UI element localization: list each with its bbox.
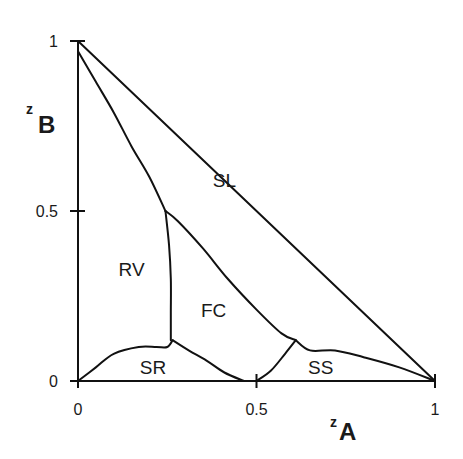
region-label-ss: SS xyxy=(308,357,333,378)
phase-diagram-chart: 00.5100.51 SLRVFCSRSS z A z B xyxy=(0,0,463,459)
axis-ticks: 00.5100.51 xyxy=(36,33,440,418)
y-tick-label: 0 xyxy=(49,373,58,390)
x-axis-label-prefix: z xyxy=(330,414,337,430)
boundary-line-2 xyxy=(78,41,435,381)
region-label-fc: FC xyxy=(201,300,226,321)
boundary-line-8 xyxy=(257,340,296,381)
y-tick-label: 1 xyxy=(49,33,58,50)
x-tick-label: 0 xyxy=(74,401,83,418)
boundary-line-7 xyxy=(173,340,244,381)
x-axis-label-main: A xyxy=(339,418,356,445)
y-tick-label: 0.5 xyxy=(36,203,58,220)
x-tick-label: 0.5 xyxy=(245,401,267,418)
region-label-sl: SL xyxy=(213,170,236,191)
region-label-rv: RV xyxy=(119,259,145,280)
boundary-line-5 xyxy=(165,211,170,340)
x-axis-label: z A xyxy=(330,414,356,445)
region-label-sr: SR xyxy=(140,357,166,378)
x-tick-label: 1 xyxy=(431,401,440,418)
y-axis-label-main: B xyxy=(38,111,55,138)
y-axis-label-prefix: z xyxy=(26,101,33,117)
boundary-line-3 xyxy=(78,51,165,211)
y-axis-label: z B xyxy=(26,101,55,138)
boundary-lines xyxy=(78,41,435,381)
